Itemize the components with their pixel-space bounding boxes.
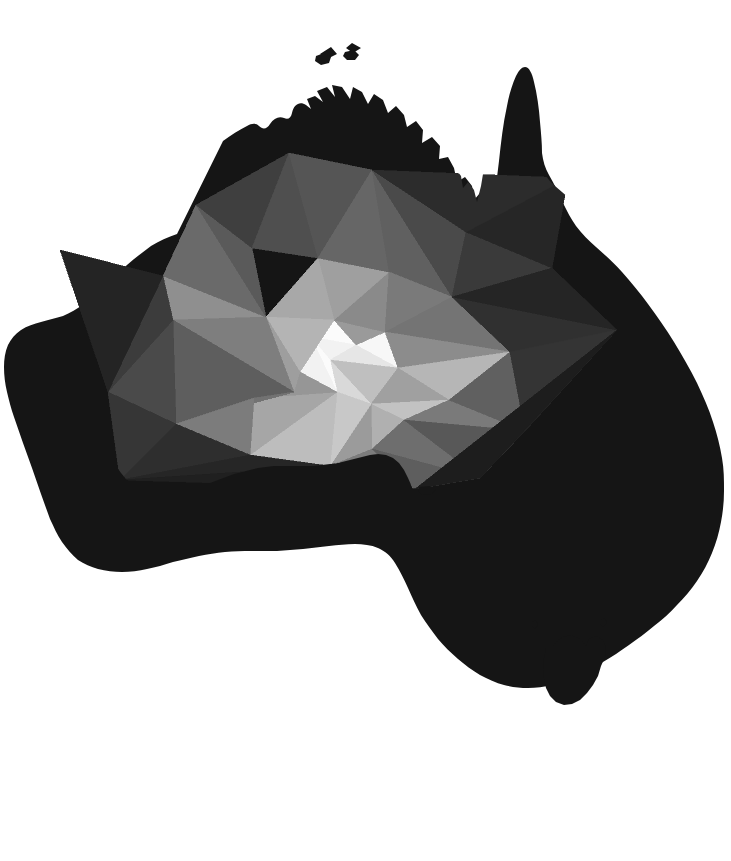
bathurst-island <box>343 50 359 60</box>
map-canvas: Low-poly map of Australia <box>0 0 731 861</box>
australia-lowpoly-map: Low-poly map of Australia <box>0 0 731 861</box>
